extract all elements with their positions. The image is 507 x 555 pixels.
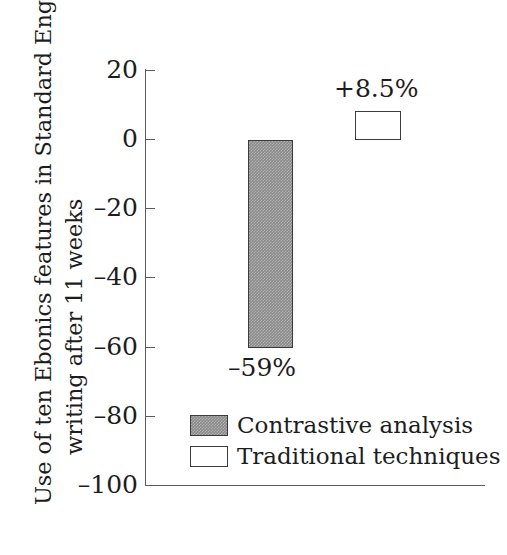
bar-traditional-techniques: [355, 111, 401, 140]
y-tick-mark-minus-20: [145, 208, 155, 209]
legend-swatch-gray-icon: [190, 415, 228, 436]
y-tick-label-text: –20: [58, 195, 138, 220]
x-axis-line: [145, 485, 485, 486]
legend-label-contrastive-analysis: Contrastive analysis: [237, 414, 473, 437]
y-axis-title-line-1: Use of ten Ebonics features in Standard …: [30, 0, 56, 505]
bar-value-label-contrastive-analysis: –59%: [228, 355, 296, 380]
legend-item-traditional-techniques: Traditional techniques: [190, 441, 500, 472]
legend-swatch-white-icon: [190, 446, 228, 467]
chart-figure: Use of ten Ebonics features in Standard …: [0, 0, 507, 555]
legend-item-contrastive-analysis: Contrastive analysis: [190, 410, 500, 441]
y-tick-label-minus-80: –80: [58, 403, 138, 429]
y-tick-mark-minus-60: [145, 347, 155, 348]
y-tick-label-text: –100: [38, 472, 138, 497]
y-tick-label-0: 0: [58, 126, 138, 152]
y-tick-label-text: –40: [58, 264, 138, 289]
y-tick-label-minus-60: –60: [58, 334, 138, 360]
y-tick-label-text: –60: [58, 334, 138, 359]
y-tick-label-minus-40: –40: [58, 264, 138, 290]
y-tick-label-minus-100: –100: [38, 472, 138, 498]
y-tick-mark-minus-80: [145, 416, 155, 417]
y-tick-label-text: 0: [58, 126, 138, 151]
y-tick-label-20: 20: [58, 57, 138, 83]
y-tick-label-minus-20: –20: [58, 195, 138, 221]
y-tick-label-text: –80: [58, 403, 138, 428]
y-tick-mark-20: [145, 70, 155, 71]
y-tick-mark-0: [145, 139, 155, 140]
chart-legend: Contrastive analysis Traditional techniq…: [190, 410, 500, 472]
legend-label-traditional-techniques: Traditional techniques: [237, 445, 500, 468]
y-tick-mark-minus-40: [145, 277, 155, 278]
y-tick-label-text: 20: [58, 57, 138, 82]
bar-value-label-traditional-techniques: +8.5%: [334, 76, 418, 101]
bar-contrastive-analysis: [248, 140, 293, 348]
y-tick-mark-minus-100: [145, 485, 155, 486]
